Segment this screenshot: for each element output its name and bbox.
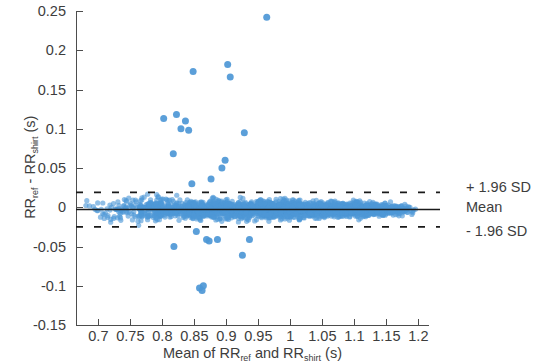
data-point: [347, 211, 352, 216]
data-point: [342, 205, 347, 210]
data-point: [257, 207, 262, 212]
data-point: [347, 202, 352, 207]
data-point: [226, 211, 231, 216]
data-point: [200, 210, 205, 215]
data-point: [322, 207, 327, 212]
data-point: [314, 209, 319, 214]
data-point: [184, 205, 189, 210]
data-point: [309, 210, 314, 215]
data-point: [257, 209, 262, 214]
data-point: [145, 217, 150, 222]
data-point: [375, 209, 380, 214]
data-point: [345, 210, 350, 215]
data-point: [298, 205, 303, 210]
data-point: [243, 200, 248, 205]
data-point: [309, 206, 314, 211]
data-point: [218, 203, 223, 208]
data-point: [195, 208, 200, 213]
data-point: [266, 209, 271, 214]
data-point: [266, 213, 271, 218]
data-point: [350, 207, 355, 212]
data-point: [340, 211, 345, 216]
data-point: [304, 204, 309, 209]
data-point: [229, 215, 234, 220]
data-point: [265, 206, 270, 211]
data-point: [337, 212, 342, 217]
data-point: [289, 210, 294, 215]
data-point: [317, 204, 322, 209]
data-point: [151, 207, 156, 212]
data-point: [231, 209, 236, 214]
data-point: [402, 202, 407, 207]
data-point: [354, 208, 359, 213]
data-point: [259, 203, 264, 208]
data-point: [277, 208, 282, 213]
data-point: [196, 205, 201, 210]
data-point: [344, 210, 349, 215]
data-point: [313, 205, 318, 210]
data-point: [327, 208, 332, 213]
data-point: [211, 209, 216, 214]
data-point: [242, 206, 247, 211]
data-point: [301, 210, 306, 215]
data-point: [247, 213, 252, 218]
data-point: [336, 207, 341, 212]
data-point: [263, 14, 270, 21]
data-point: [235, 204, 240, 209]
data-point: [332, 200, 337, 205]
data-point: [334, 204, 339, 209]
data-point: [264, 205, 269, 210]
data-point: [358, 216, 363, 221]
data-point: [181, 208, 186, 213]
data-point: [198, 205, 203, 210]
data-point: [285, 215, 290, 220]
data-point: [378, 204, 383, 209]
data-point: [374, 208, 379, 213]
data-point: [380, 207, 385, 212]
data-point: [299, 208, 304, 213]
data-point: [186, 212, 191, 217]
data-point: [208, 202, 213, 207]
data-point: [277, 209, 282, 214]
data-point: [265, 214, 270, 219]
data-point: [374, 205, 379, 210]
data-point: [193, 205, 198, 210]
data-point: [262, 204, 267, 209]
data-point: [357, 206, 362, 211]
data-point: [190, 201, 195, 206]
data-point: [403, 208, 408, 213]
data-point: [239, 215, 244, 220]
data-point: [190, 214, 195, 219]
data-point: [340, 205, 345, 210]
data-point: [192, 205, 197, 210]
data-point: [354, 202, 359, 207]
data-point: [236, 219, 241, 224]
data-point: [297, 216, 302, 221]
data-point: [211, 202, 216, 207]
data-point: [189, 212, 194, 217]
data-point: [298, 204, 303, 209]
data-point: [316, 208, 321, 213]
data-point: [275, 207, 280, 212]
data-point: [372, 209, 377, 214]
data-point: [297, 208, 302, 213]
data-point: [264, 212, 269, 217]
data-point: [218, 199, 223, 204]
data-point: [287, 208, 292, 213]
data-point: [330, 209, 335, 214]
data-point: [274, 207, 279, 212]
data-point: [287, 209, 292, 214]
data-point: [294, 208, 299, 213]
data-point: [111, 216, 116, 221]
data-point: [148, 206, 153, 211]
lower-loa-label: - 1.96 SD: [466, 224, 527, 239]
data-point: [278, 202, 283, 207]
data-point: [335, 206, 340, 211]
data-point: [302, 205, 307, 210]
data-point: [367, 209, 372, 214]
data-point: [294, 208, 299, 213]
data-point: [290, 200, 295, 205]
data-point: [183, 209, 188, 214]
data-point: [170, 197, 175, 202]
data-point: [231, 211, 236, 216]
